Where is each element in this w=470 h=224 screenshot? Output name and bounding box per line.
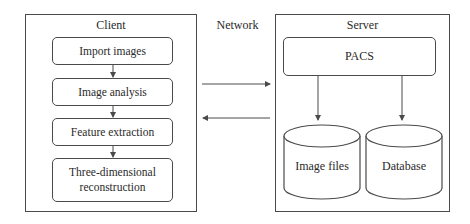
database-label: Database: [366, 152, 442, 180]
network-arrows: [202, 84, 270, 118]
server-flow-arrows: [318, 76, 402, 120]
image-files-label: Image files: [284, 152, 360, 180]
connectors: [0, 0, 470, 224]
